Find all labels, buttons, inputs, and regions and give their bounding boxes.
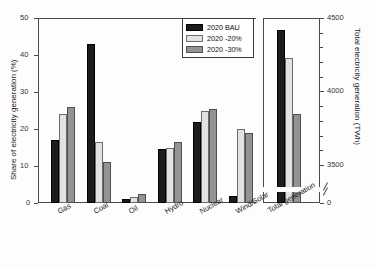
chart-figure: Share of electricity generation (%) 0102… xyxy=(0,0,376,268)
tick-label: 40 xyxy=(20,50,28,59)
bar-group xyxy=(277,30,301,203)
x-axis-label: Gas xyxy=(56,201,72,216)
bar xyxy=(209,109,217,203)
bar xyxy=(130,197,138,203)
bar xyxy=(95,142,103,203)
tick-label: 10 xyxy=(20,161,28,170)
bar xyxy=(201,111,209,204)
tick-mark xyxy=(320,91,324,92)
legend-swatch-icon xyxy=(186,35,203,42)
legend: 2020 BAU 2020 -20% 2020 -30% xyxy=(182,18,254,58)
bar xyxy=(285,58,293,203)
minor-tick-mark xyxy=(320,106,323,107)
tick-mark xyxy=(320,165,324,166)
minor-tick-mark xyxy=(320,47,323,48)
tick-label: 20 xyxy=(20,124,28,133)
tick-label: 4500 xyxy=(327,13,344,22)
bar-group xyxy=(122,194,146,203)
legend-item-1: 2020 -20% xyxy=(186,33,250,43)
x-axis-label: Oil xyxy=(127,203,139,215)
tick-mark xyxy=(34,203,38,204)
tick-label: 0 xyxy=(327,198,331,207)
bar xyxy=(237,129,245,203)
bar xyxy=(103,162,111,203)
right-plot-area xyxy=(263,18,320,203)
bar xyxy=(51,140,59,203)
bar xyxy=(122,199,130,203)
legend-swatch-icon xyxy=(186,24,203,31)
bar-group xyxy=(158,142,182,203)
bar xyxy=(59,114,67,203)
bar xyxy=(245,133,253,203)
bar xyxy=(229,196,237,203)
bar xyxy=(67,107,75,203)
legend-item-0: 2020 BAU xyxy=(186,22,250,32)
minor-tick-mark xyxy=(320,33,323,34)
bar xyxy=(158,149,166,203)
bar xyxy=(138,194,146,203)
bar-group xyxy=(193,109,217,203)
legend-item-2: 2020 -30% xyxy=(186,44,250,54)
bar-group xyxy=(87,44,111,203)
tick-label: 4000 xyxy=(327,86,344,95)
tick-label: 0 xyxy=(26,198,30,207)
minor-tick-mark xyxy=(320,150,323,151)
bar-group xyxy=(51,107,75,203)
tick-label: 50 xyxy=(20,13,28,22)
bar xyxy=(277,30,285,203)
tick-label: 30 xyxy=(20,87,28,96)
right-axis-title: Total electricity generation (TWh) xyxy=(353,28,362,145)
legend-swatch-icon xyxy=(186,46,203,53)
left-axis-title: Share of electricity generation (%) xyxy=(9,60,18,181)
minor-tick-mark xyxy=(320,136,323,137)
legend-label: 2020 BAU xyxy=(207,23,240,32)
minor-tick-mark xyxy=(320,77,323,78)
legend-label: 2020 -20% xyxy=(207,34,242,43)
tick-mark xyxy=(320,203,324,204)
bar xyxy=(193,122,201,203)
minor-tick-mark xyxy=(320,62,323,63)
bar-group xyxy=(229,129,253,203)
bar xyxy=(166,148,174,204)
bar xyxy=(87,44,95,203)
legend-label: 2020 -30% xyxy=(207,45,242,54)
bar xyxy=(174,142,182,203)
tick-label: 3500 xyxy=(327,160,344,169)
tick-mark xyxy=(320,18,324,19)
minor-tick-mark xyxy=(320,121,323,122)
